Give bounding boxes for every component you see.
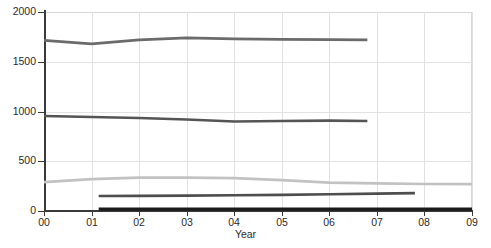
line-chart: 0500100015002000 00010203040506070809 Ye…	[0, 0, 491, 248]
x-axis-title: Year	[0, 228, 491, 240]
series-line	[99, 193, 415, 196]
series-line	[44, 38, 367, 44]
series-line	[44, 116, 367, 121]
series-line	[44, 178, 472, 184]
series-lines	[0, 0, 491, 248]
